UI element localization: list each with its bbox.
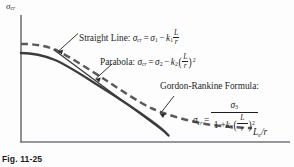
parabola-paren-open: ( xyxy=(178,55,181,69)
annotation-straight-line: Straight Line: σcr=σ1−k1Lr xyxy=(79,29,179,46)
parabola-coef-sub: 2 xyxy=(175,61,178,67)
straight-slenderness-fraction: Lr xyxy=(173,29,179,46)
gr-num-sub: 3 xyxy=(235,104,238,110)
parabola-frac-den: r xyxy=(182,61,188,70)
annotation-straight-line-name: Straight Line: xyxy=(79,33,130,43)
parabola-paren-close: ) xyxy=(189,55,192,69)
y-axis-title-subscript: cr xyxy=(10,5,15,11)
gr-denominator: 1 +k3(Lr)2 xyxy=(211,112,258,133)
parabola-minus: − xyxy=(163,57,171,67)
gr-main-fraction: σ31 +k3(Lr)2 xyxy=(211,100,258,133)
straight-frac-den: r xyxy=(173,37,179,46)
annotation-gordon-rankine-title: Gordon-Rankine Formula: xyxy=(160,82,259,92)
parabola-exponent: 2 xyxy=(193,57,196,63)
annotation-gordon-rankine-equation: σcr=σ31 +k3(Lr)2 xyxy=(193,100,258,133)
gr-slenderness-fraction: Lr xyxy=(237,114,247,133)
annotation-parabola-name: Parabola: xyxy=(100,57,135,67)
gr-paren-close: ) xyxy=(248,117,251,132)
leader-gordon-rankine-arrow xyxy=(160,113,166,118)
annotation-parabola: Parabola: σcr=σ2−k2(Lr)2 xyxy=(100,53,196,70)
gr-den-coef-sub: 3 xyxy=(230,124,233,130)
gr-paren-open: ( xyxy=(233,117,236,132)
parabola-frac-num: L xyxy=(182,53,188,61)
figure-column-buckling-curves: σcr Le/r Straight Line: σcr=σ1−k1Lr Para… xyxy=(0,0,294,167)
x-axis-title-tail: /r xyxy=(261,127,267,137)
leader-gordon-rankine xyxy=(160,96,174,114)
straight-minus: − xyxy=(158,33,166,43)
gr-numerator: σ3 xyxy=(211,100,258,112)
gr-den-one: 1 + xyxy=(214,120,226,130)
leader-straight-line xyxy=(58,34,78,52)
parabola-slenderness-fraction: Lr xyxy=(182,53,188,70)
gr-frac-num: L xyxy=(237,114,247,123)
figure-caption: Fig. 11-25 xyxy=(2,155,42,164)
gr-equals: = xyxy=(202,115,210,125)
straight-frac-num: L xyxy=(173,29,179,37)
y-axis-title: σcr xyxy=(6,2,15,12)
gr-den-exponent: 2 xyxy=(252,120,255,126)
gr-frac-den: r xyxy=(237,123,247,133)
parabola-equals: = xyxy=(147,57,155,67)
